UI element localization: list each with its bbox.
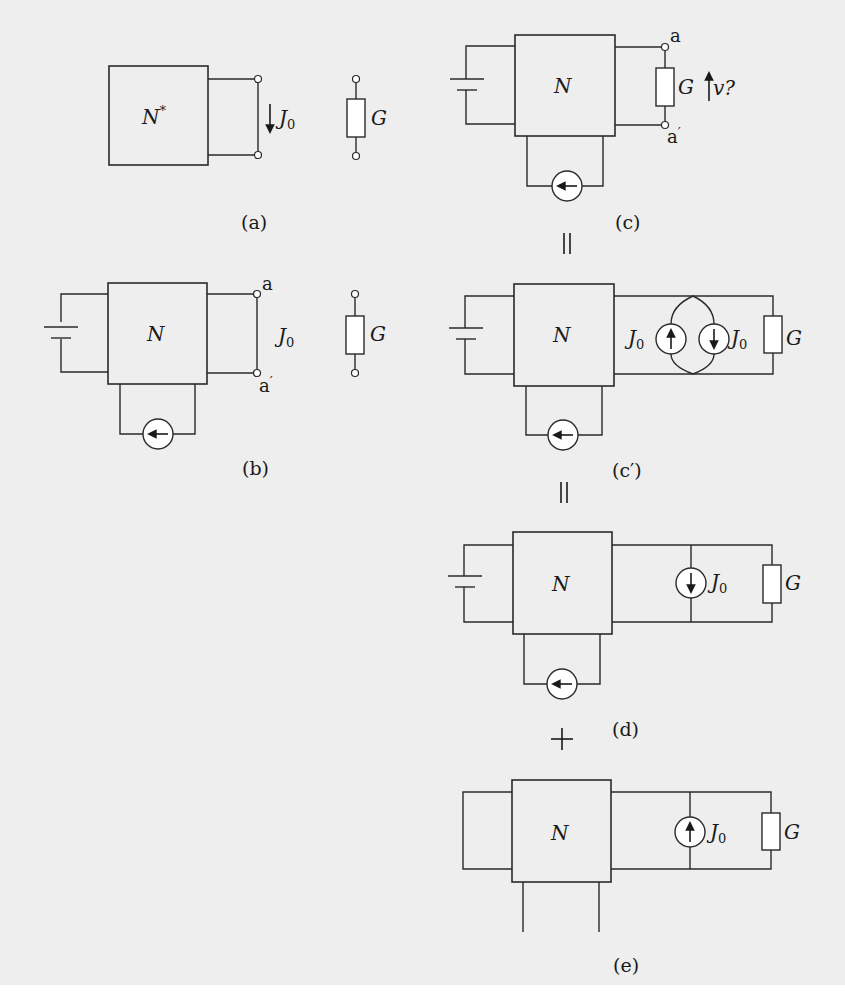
terminal-top xyxy=(353,76,360,83)
terminal-top xyxy=(255,76,262,83)
source-label: J0 xyxy=(706,820,726,846)
caption: (c′) xyxy=(612,459,642,481)
terminal-bottom xyxy=(352,370,359,377)
resistor-icon xyxy=(763,565,781,603)
caption: (e) xyxy=(613,954,639,976)
short-circuit-loop xyxy=(463,792,512,869)
current-label: J0 xyxy=(274,324,294,350)
resistor-label: G xyxy=(370,322,386,346)
plus-operator xyxy=(551,728,573,750)
caption: (d) xyxy=(612,718,639,740)
network-label: N xyxy=(552,323,572,347)
network-label: N xyxy=(553,74,573,98)
network-label: N xyxy=(146,322,166,346)
network-label: N xyxy=(551,572,571,596)
resistor-label: G xyxy=(784,820,800,844)
terminal-bottom xyxy=(255,152,262,159)
terminal-a-label: a xyxy=(670,25,681,46)
battery-wire xyxy=(465,296,514,374)
terminal-top xyxy=(352,291,359,298)
panel-c: N a a′ G v? (c) xyxy=(450,25,735,233)
panel-c-prime: N J0 J0 G (c′) xyxy=(449,284,802,481)
source-right-label: J0 xyxy=(727,326,747,352)
equals-operator-2 xyxy=(561,482,567,503)
short-circuit-wire xyxy=(207,294,257,373)
current-label: J0 xyxy=(275,106,295,132)
equals-operator-1 xyxy=(564,233,570,254)
resistor-icon xyxy=(656,68,674,106)
terminal-a-prime-label: a′ xyxy=(259,374,273,396)
battery-wire xyxy=(61,294,108,372)
resistor-icon xyxy=(346,316,364,354)
resistor-label: G xyxy=(785,571,801,595)
terminal-a xyxy=(662,44,669,51)
terminal-a xyxy=(254,291,261,298)
resistor-icon xyxy=(762,813,780,850)
network-label: N xyxy=(550,821,570,845)
terminal-a-label: a xyxy=(262,273,273,294)
source-left-label: J0 xyxy=(624,326,644,352)
resistor-icon xyxy=(347,99,365,137)
caption: (b) xyxy=(242,457,269,479)
panel-a: N* J0 G (a) xyxy=(109,66,387,233)
figure-canvas: N* J0 G (a) N xyxy=(0,0,845,1000)
source-label: J0 xyxy=(707,570,727,596)
terminal-a-prime-label: a′ xyxy=(667,125,681,147)
voltage-label: v? xyxy=(713,76,735,100)
resistor-label: G xyxy=(678,75,694,99)
battery-wire xyxy=(466,46,515,124)
battery-wire xyxy=(464,545,513,622)
resistor-icon xyxy=(764,316,782,353)
circuit-diagram: N* J0 G (a) N xyxy=(0,0,845,1000)
caption: (a) xyxy=(241,211,267,233)
network-label: N* xyxy=(141,103,167,129)
terminal-bottom xyxy=(353,153,360,160)
resistor-label: G xyxy=(786,326,802,350)
panel-d: N J0 G (d) xyxy=(448,532,801,740)
panel-e: N J0 G (e) xyxy=(463,780,800,976)
short-circuit-wire xyxy=(208,79,258,155)
panel-b: N a a′ J0 G (b) xyxy=(44,273,386,479)
output-wire xyxy=(614,296,773,374)
resistor-label: G xyxy=(371,106,387,130)
caption: (c) xyxy=(615,211,640,233)
open-circuit-leads xyxy=(523,882,599,932)
